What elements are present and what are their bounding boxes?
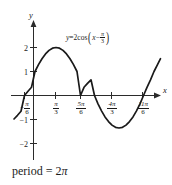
- y-tick-label-neg1: −1: [19, 116, 28, 125]
- caption-text: period = 2: [12, 164, 61, 178]
- x-tick-label-4pi-3: 4π3: [101, 101, 123, 117]
- coordinate-plane: x y 2 1 −1 −2: [0, 0, 172, 185]
- right-paren: ): [106, 32, 109, 43]
- y-tick-label-2: 2: [24, 44, 28, 53]
- y-axis: [31, 20, 37, 160]
- frac-denominator: 6: [76, 109, 85, 116]
- left-paren: (: [88, 32, 91, 43]
- y-axis-arrowhead: [31, 20, 37, 27]
- y-tick-label-neg2: −2: [19, 140, 28, 149]
- x-axis-label: x: [162, 85, 167, 95]
- frac-denominator: 3: [53, 109, 59, 116]
- frac-denominator: 6: [137, 109, 149, 116]
- x-axis-arrowhead: [154, 93, 161, 99]
- frac-denominator: 3: [107, 109, 116, 116]
- equation-amplitude-fn: 2cos: [74, 33, 88, 42]
- frac-numerator: π: [100, 31, 105, 38]
- y-tick-label-1: 1: [24, 68, 28, 77]
- x-tick-label-5pi-6: 5π6: [70, 101, 92, 117]
- equation-annotation: y=2cos(x−π3): [66, 31, 110, 45]
- phase-fraction: π3: [100, 31, 105, 45]
- caption-pi: π: [61, 164, 67, 178]
- x-tick-label-neg-pi-6: −π6: [13, 101, 37, 117]
- y-axis-label: y: [28, 10, 33, 20]
- frac-denominator: 3: [100, 38, 105, 44]
- x-tick-label-11pi-6: 11π6: [131, 101, 155, 117]
- trig-graph-figure: x y 2 1 −1 −2 −π6 π3 5π6: [0, 0, 172, 185]
- x-tick-label-pi-3: π3: [46, 101, 66, 117]
- period-caption: period = 2π: [12, 164, 67, 179]
- frac-denominator: 6: [24, 109, 30, 116]
